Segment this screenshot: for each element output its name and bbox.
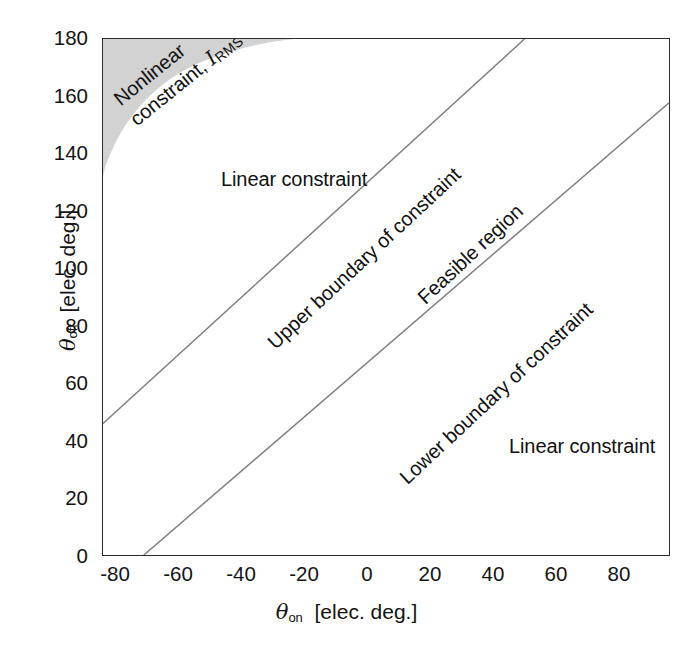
x-axis-subscript: on xyxy=(288,610,302,625)
y-tick-label: 20 xyxy=(30,486,88,510)
annotation-linear-constraint-bottom: Linear constraint xyxy=(509,435,655,458)
y-axis-subscript: off xyxy=(65,324,80,338)
x-tick-label: -20 xyxy=(269,562,339,586)
x-tick-label: -60 xyxy=(143,562,213,586)
x-tick-label: 20 xyxy=(395,562,465,586)
plot-canvas xyxy=(103,39,669,555)
y-tick-label: 160 xyxy=(30,84,88,108)
y-axis-title: θoff [elec. deg.] xyxy=(56,150,81,410)
x-axis-unit: [elec. deg.] xyxy=(315,600,418,623)
plot-area: Nonlinear constraint, IRMS Linear constr… xyxy=(102,38,670,556)
y-axis-unit: [elec. deg.] xyxy=(56,210,79,313)
annotation-linear-constraint-top: Linear constraint xyxy=(221,168,367,191)
x-axis-title: θon [elec. deg.] xyxy=(0,600,693,625)
y-tick-label: 180 xyxy=(30,26,88,50)
x-tick-label: 0 xyxy=(332,562,402,586)
x-tick-label: -40 xyxy=(206,562,276,586)
x-tick-label: 80 xyxy=(584,562,654,586)
x-axis-symbol: θ xyxy=(276,600,289,624)
x-tick-label: -80 xyxy=(80,562,150,586)
figure-container: 0 20 40 60 80 100 120 140 160 180 -80 -6… xyxy=(0,0,693,649)
x-tick-label: 60 xyxy=(521,562,591,586)
x-tick-label: 40 xyxy=(458,562,528,586)
y-tick-label: 40 xyxy=(30,429,88,453)
y-axis-symbol: θ xyxy=(56,338,80,351)
